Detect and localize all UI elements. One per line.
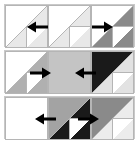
cell-row1-col0 [5, 51, 48, 94]
cell-row1-col2 [91, 51, 134, 94]
cell-row0-col0 [5, 5, 48, 48]
cell-row0-col1 [48, 5, 91, 48]
cell-row2-col0 [5, 97, 48, 140]
cell-row0-col2 [91, 5, 134, 48]
triangle-lattice-figure [0, 0, 139, 146]
cell-row2-col1 [48, 97, 91, 140]
cell-row1-col1 [48, 51, 91, 94]
cell-row2-col2 [91, 97, 134, 140]
cell-solid-fill [48, 51, 91, 94]
cell-solid-fill [5, 97, 48, 140]
